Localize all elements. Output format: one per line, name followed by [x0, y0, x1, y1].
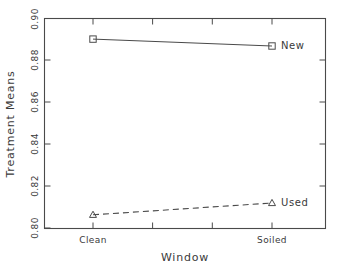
- series-used: [90, 199, 276, 217]
- series-new-line: [93, 39, 272, 46]
- x-axis-ticks: [93, 223, 272, 229]
- y-tick-label-5: 0.90: [30, 8, 40, 30]
- x-axis-title: Window: [161, 251, 209, 264]
- x-tick-labels: Clean Soiled: [79, 235, 287, 245]
- y-tick-label-3: 0.86: [30, 91, 40, 113]
- y-tick-label-4: 0.88: [30, 49, 40, 71]
- x-axis-ticks-top: [93, 19, 272, 25]
- series-used-line: [93, 203, 272, 215]
- y-tick-label-2: 0.84: [30, 133, 40, 155]
- y-axis-title: Treatment Means: [4, 70, 17, 178]
- plot-canvas: 0.80 0.82 0.84 0.86 0.88 0.90 Clean Soil…: [0, 0, 340, 270]
- y-tick-labels: 0.80 0.82 0.84 0.86 0.88 0.90: [30, 8, 40, 239]
- x-tick-label-soiled: Soiled: [257, 235, 287, 245]
- y-tick-label-0: 0.80: [30, 217, 40, 239]
- series-label-used: Used: [281, 197, 308, 208]
- x-tick-label-clean: Clean: [79, 235, 107, 245]
- series-label-new: New: [281, 40, 305, 51]
- interaction-plot: 0.80 0.82 0.84 0.86 0.88 0.90 Clean Soil…: [0, 0, 340, 270]
- y-axis-ticks-right: [320, 60, 326, 186]
- y-tick-label-1: 0.82: [30, 175, 40, 197]
- y-axis-ticks: [45, 19, 51, 229]
- series-used-marker-soiled: [269, 199, 276, 205]
- series-new: [90, 36, 275, 49]
